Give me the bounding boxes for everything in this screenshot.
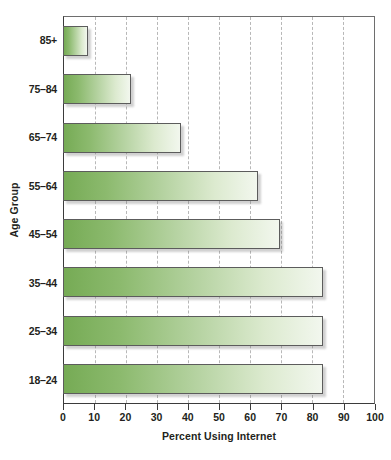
x-axis-tick-label: 30 <box>151 411 163 423</box>
x-axis-tickmark <box>313 404 314 410</box>
bar-row <box>64 162 374 210</box>
bar-row <box>64 355 374 403</box>
bar-row <box>64 65 374 113</box>
x-axis-tick-label: 70 <box>276 411 288 423</box>
y-axis-tick-labels: 85+75–8465–7455–6445–5435–4425–3418–24 <box>20 16 61 404</box>
bar <box>63 123 181 153</box>
bar <box>63 316 323 346</box>
bar-chart: Age Group 85+75–8465–7455–6445–5435–4425… <box>0 0 391 460</box>
x-axis-tick-label: 10 <box>88 411 100 423</box>
y-axis-tick-label: 55–64 <box>20 162 61 211</box>
bar <box>63 219 280 249</box>
bar <box>63 74 131 104</box>
x-axis-tick-label: 90 <box>338 411 350 423</box>
x-axis-title: Percent Using Internet <box>63 430 375 442</box>
y-axis-tick-label: 45–54 <box>20 210 61 259</box>
x-axis-tickmarks <box>63 404 375 410</box>
bar-row <box>64 210 374 258</box>
x-axis-tick-labels: 0102030405060708090100 <box>63 411 375 427</box>
x-axis-tick-label: 100 <box>366 411 384 423</box>
y-axis-title-label: Age Group <box>8 182 20 237</box>
x-axis-tickmark <box>219 404 220 410</box>
x-axis-tickmark <box>94 404 95 410</box>
y-axis-tick-label: 35–44 <box>20 259 61 308</box>
bar-row <box>64 258 374 306</box>
x-axis-tick-label: 80 <box>307 411 319 423</box>
x-axis-tickmark <box>344 404 345 410</box>
y-axis-tick-label: 18–24 <box>20 356 61 405</box>
bars-layer <box>64 17 374 403</box>
bar-row <box>64 17 374 65</box>
bar <box>63 364 323 394</box>
x-axis-tick-label: 40 <box>182 411 194 423</box>
y-axis-tick-label: 25–34 <box>20 307 61 356</box>
x-axis-tickmark <box>375 404 376 410</box>
x-axis-tickmark <box>125 404 126 410</box>
bar-row <box>64 307 374 355</box>
plot-area <box>63 16 375 404</box>
x-axis-tickmark <box>157 404 158 410</box>
x-axis-tickmark <box>63 404 64 410</box>
bar <box>63 171 258 201</box>
bar <box>63 267 323 297</box>
x-axis-tickmark <box>281 404 282 410</box>
x-axis-tick-label: 60 <box>244 411 256 423</box>
x-axis-tick-label: 50 <box>213 411 225 423</box>
bar-row <box>64 114 374 162</box>
x-axis-tick-label: 20 <box>120 411 132 423</box>
y-axis-tick-label: 75–84 <box>20 65 61 114</box>
x-axis-tickmark <box>250 404 251 410</box>
y-axis-tick-label: 85+ <box>20 16 61 65</box>
bar <box>63 26 88 56</box>
x-axis-tickmark <box>188 404 189 410</box>
x-axis-tick-label: 0 <box>60 411 66 423</box>
y-axis-tick-label: 65–74 <box>20 113 61 162</box>
